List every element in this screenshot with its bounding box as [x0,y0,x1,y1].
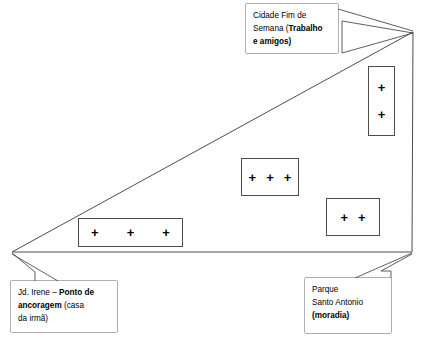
plus-symbol: + [127,226,135,239]
callout-jd-irene: Jd. Irene – Ponto de ancoragem (casa da … [11,281,117,332]
callout-cidade-line-1-text: Cidade Fim de [253,11,306,20]
plus-box-center: + + + [241,158,299,196]
plus-symbol: + [378,108,386,121]
callout-jdirene-line-1-regular: Jd. Irene – [18,288,59,297]
callout-jdirene-line-1: Jd. Irene – Ponto de [18,286,111,299]
callout-parque-santo-antonio: Parque Santo Antonio (moradia) [305,278,391,333]
callout-cidade-line-3: e amigos) [253,35,332,48]
plus-symbol: + [358,211,366,224]
plus-symbol: + [91,226,99,239]
callout-parque-line-1: Parque [312,283,385,296]
callout-cidade-line-3-bold: e amigos) [253,37,291,46]
callout-cidade-line-2-bold: Trabalho [289,24,323,33]
diagram-canvas: Cidade Fim de Semana (Trabalho e amigos)… [0,0,425,348]
callout-parque-line-2: Santo Antonio [312,296,385,309]
callout-cidade-line-1: Cidade Fim de [253,9,332,22]
callout-parque-line-3-bold: (moradia) [312,311,349,320]
plus-symbol: + [266,171,274,184]
callout-jdirene-line-2: ancoragem (casa [18,299,111,312]
callout-jdirene-line-3-regular: da irmã) [18,314,48,323]
callout-cidade-fim-de-semana: Cidade Fim de Semana (Trabalho e amigos) [246,4,338,53]
plus-symbol: + [249,171,257,184]
callout-parque-line-1-regular: Parque [312,285,338,294]
leader-cidade-notch-bottom [342,33,413,53]
leader-parque-upper [355,253,412,278]
callout-cidade-line-2-regular: Semana ( [253,24,289,33]
plus-symbol: + [378,81,386,94]
callout-jdirene-line-3: da irmã) [18,312,111,325]
leader-cidade-lower [342,21,413,33]
callout-jdirene-line-2-regular: (casa [62,301,84,310]
plus-box-right-tall: + + [368,66,395,136]
plus-symbol: + [284,171,292,184]
plus-box-lower-right: + + [326,198,380,236]
callout-parque-line-2-regular: Santo Antonio [312,298,363,307]
plus-symbol: + [340,211,348,224]
callout-jdirene-line-1-bold: Ponto de [59,288,94,297]
leader-parque-lower [381,254,412,271]
callout-jdirene-line-2-bold: ancoragem [18,301,62,310]
leader-cidade-upper [338,9,413,31]
plus-box-lower-left: + + + [78,218,183,247]
callout-cidade-line-2: Semana (Trabalho [253,22,332,35]
plus-symbol: + [162,226,170,239]
callout-parque-line-3: (moradia) [312,309,385,322]
triangle-right-edge [412,32,413,252]
